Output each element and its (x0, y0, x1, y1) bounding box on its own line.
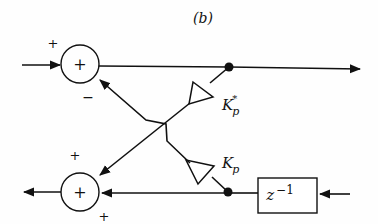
triangle-amplifier-icon (186, 160, 214, 184)
bottom-branch-dot (224, 188, 233, 197)
lattice-diagram: (b) + + − K*p Kp z−1 + + + (0, 0, 378, 224)
bottom-sum-symbol: + (73, 183, 86, 202)
bottom-plus-sign-lower: + (99, 209, 110, 224)
diagram-svg: (b) + + − K*p Kp z−1 + + + (0, 0, 378, 224)
gain-kp-label: Kp (221, 154, 239, 176)
triangle-amplifier-icon (189, 82, 213, 104)
gain-kp-star (100, 67, 229, 175)
bottom-plus-sign-upper: + (70, 148, 81, 163)
top-line (99, 66, 229, 67)
top-minus-sign: − (82, 89, 94, 105)
caption: (b) (193, 10, 213, 26)
delay-block: z−1 (258, 178, 317, 213)
top-summing-junction: + (61, 45, 99, 83)
gain-kp-star-label: K*p (221, 93, 239, 118)
top-sum-symbol: + (73, 55, 86, 74)
bottom-summing-junction: + (61, 173, 99, 211)
top-output-arrow (229, 67, 360, 69)
top-plus-sign: + (48, 36, 59, 51)
